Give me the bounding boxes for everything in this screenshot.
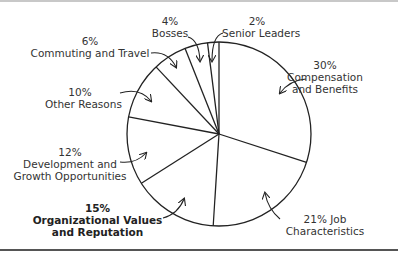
label-other-pct: 10% bbox=[45, 86, 115, 98]
label-development: 12% Development and Growth Opportunities bbox=[10, 146, 130, 182]
label-job: 21% Job Characteristics bbox=[270, 213, 380, 237]
label-org: 15% Organizational Values and Reputation bbox=[30, 202, 165, 238]
label-senior-line1: Senior Leaders bbox=[222, 27, 292, 39]
label-compensation: 30% Compensation and Benefits bbox=[270, 59, 380, 95]
label-org-line1: Organizational Values bbox=[30, 214, 165, 226]
label-commuting-pct: 6% bbox=[30, 35, 150, 47]
label-senior-pct: 2% bbox=[222, 15, 292, 27]
label-development-line1: Development and bbox=[10, 158, 130, 170]
label-job-line2: Characteristics bbox=[270, 225, 380, 237]
label-senior: 2% Senior Leaders bbox=[222, 15, 292, 39]
label-org-line2: and Reputation bbox=[30, 226, 165, 238]
label-commuting: 6% Commuting and Travel bbox=[30, 35, 150, 59]
bottom-rule bbox=[0, 249, 398, 251]
label-bosses-pct: 4% bbox=[145, 15, 195, 27]
label-org-pct: 15% bbox=[30, 202, 165, 214]
label-compensation-line2: and Benefits bbox=[270, 83, 380, 95]
label-development-line2: Growth Opportunities bbox=[10, 170, 130, 182]
label-bosses-line1: Bosses bbox=[145, 27, 195, 39]
label-other-line1: Other Reasons bbox=[45, 98, 115, 110]
label-commuting-line1: Commuting and Travel bbox=[30, 47, 150, 59]
label-other: 10% Other Reasons bbox=[45, 86, 115, 110]
label-compensation-line1: Compensation bbox=[270, 71, 380, 83]
label-job-line1: 21% Job bbox=[270, 213, 380, 225]
label-bosses: 4% Bosses bbox=[145, 15, 195, 39]
label-compensation-pct: 30% bbox=[270, 59, 380, 71]
label-development-pct: 12% bbox=[10, 146, 130, 158]
